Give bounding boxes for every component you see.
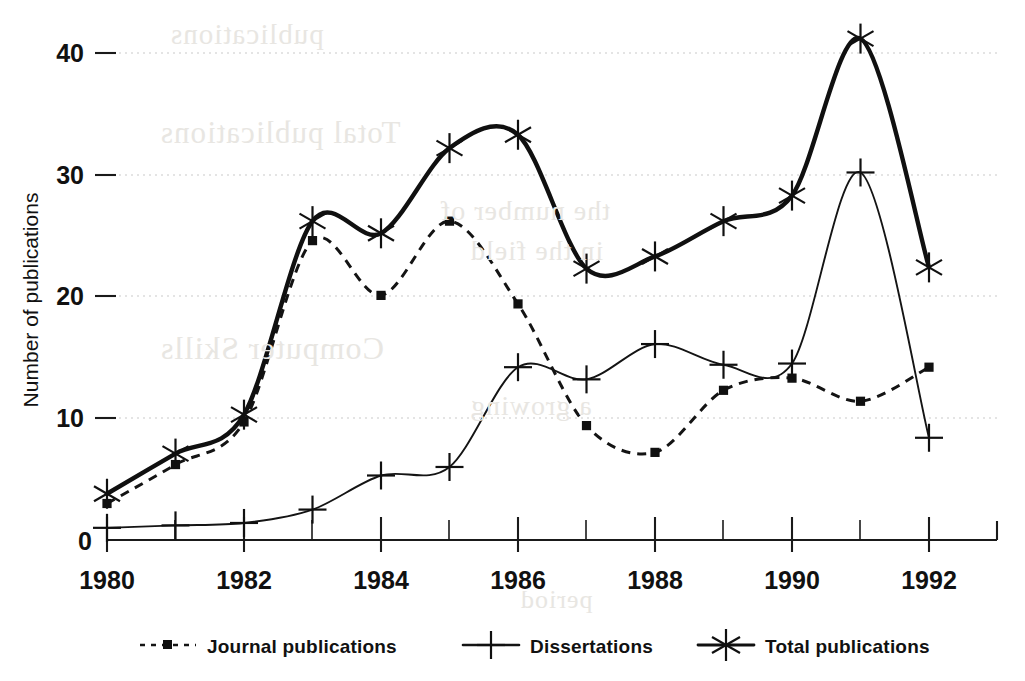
y-tick-label-10: 10 (56, 404, 84, 432)
data-point-journal-publications-1983 (308, 236, 317, 245)
marker-square-icon (376, 291, 385, 300)
legend-item-journal-publications[interactable]: Journal publications (140, 636, 397, 657)
marker-square-icon (924, 363, 933, 372)
legend-item-dissertations[interactable]: Dissertations (463, 631, 653, 659)
marker-square-icon (719, 386, 728, 395)
data-point-dissertations-1981 (162, 511, 190, 539)
y-tick-label-30: 30 (56, 161, 84, 189)
series-total-publications (94, 24, 942, 509)
data-point-total-publications-1981 (163, 439, 189, 469)
data-point-total-publications-1988 (642, 241, 668, 271)
legend-item-total-publications[interactable]: Total publications (698, 629, 930, 661)
data-point-total-publications-1983 (300, 206, 326, 236)
publications-line-chart-figure: publications Total publications the numb… (0, 0, 1025, 681)
data-point-dissertations-1987 (573, 365, 601, 393)
y-axis-title: Number of publications (19, 193, 42, 408)
data-point-journal-publications-1989 (719, 386, 728, 395)
y-tick-label-0: 0 (78, 527, 92, 555)
gridlines (107, 53, 1000, 418)
marker-square-icon (856, 397, 865, 406)
y-axis: 40 30 20 10 0 Number of publications (19, 39, 116, 555)
data-point-journal-publications-1984 (376, 291, 385, 300)
data-point-dissertations-1992 (915, 424, 943, 452)
data-point-journal-publications-1986 (513, 299, 522, 308)
data-point-dissertations-1988 (641, 330, 669, 358)
marker-square-icon (445, 217, 454, 226)
marker-square-icon (513, 299, 522, 308)
x-tick-label-1988: 1988 (627, 566, 683, 594)
data-point-total-publications-1989 (711, 206, 737, 236)
data-point-journal-publications-1987 (582, 421, 591, 430)
data-point-dissertations-1983 (299, 496, 327, 524)
data-point-dissertations-1984 (367, 461, 395, 489)
series-line-total-publications (107, 38, 929, 494)
y-tick-label-20: 20 (56, 282, 84, 310)
marker-square-icon (582, 421, 591, 430)
series-dissertations (93, 158, 943, 541)
data-point-dissertations-1989 (710, 351, 738, 379)
x-tick-label-1990: 1990 (764, 566, 820, 594)
x-tick-label-1982: 1982 (216, 566, 272, 594)
data-point-journal-publications-1985 (445, 217, 454, 226)
legend-label-journal-publications: Journal publications (207, 636, 397, 657)
x-tick-label-1992: 1992 (901, 566, 957, 594)
data-point-dissertations-1982 (230, 509, 258, 537)
data-point-journal-publications-1988 (650, 448, 659, 457)
plot-layer (93, 24, 943, 542)
legend-label-total-publications: Total publications (765, 636, 930, 657)
data-point-total-publications-1980 (94, 479, 120, 509)
x-axis: 1980 1982 1984 1986 1988 1990 1992 (79, 517, 997, 594)
chart-canvas: 40 30 20 10 0 Number of publications (0, 0, 1025, 681)
legend-label-dissertations: Dissertations (530, 636, 653, 657)
data-point-journal-publications-1992 (924, 363, 933, 372)
x-tick-label-1984: 1984 (353, 566, 409, 594)
x-tick-label-1986: 1986 (490, 566, 546, 594)
marker-square-icon (650, 448, 659, 457)
legend-marker-square-icon (163, 640, 172, 649)
series-line-dissertations (107, 172, 929, 528)
chart-legend: Journal publications Dissertations Total… (140, 629, 930, 661)
marker-square-icon (308, 236, 317, 245)
data-point-total-publications-1992 (916, 252, 942, 282)
data-point-dissertations-1980 (93, 514, 121, 542)
y-tick-label-40: 40 (56, 39, 84, 67)
data-point-journal-publications-1991 (856, 397, 865, 406)
x-tick-label-1980: 1980 (79, 566, 135, 594)
data-point-dissertations-1991 (847, 158, 875, 186)
